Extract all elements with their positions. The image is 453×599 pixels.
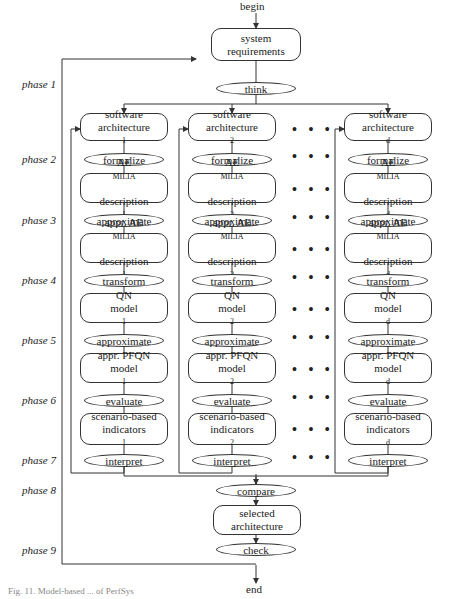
interpret-ellipse-2: interpret bbox=[192, 454, 272, 467]
evaluate-ellipse-3: evaluate bbox=[348, 394, 428, 407]
sel-line1: selected bbox=[239, 507, 274, 520]
approximate2-ellipse-1: approximate bbox=[84, 334, 164, 347]
think-ellipse: think bbox=[216, 82, 296, 95]
aemilia-description-box-2: AEmiliadescription2 bbox=[188, 173, 276, 203]
software-architecture-box-2: softwarearchitecture2 bbox=[188, 113, 276, 141]
transform-ellipse-3: transform bbox=[348, 274, 428, 287]
pfqn-model-box-2: appr. PFQNmodel2 bbox=[188, 353, 276, 383]
phase-8-label: phase 8 bbox=[22, 484, 56, 496]
software-architecture-box-3: softwarearchitectured bbox=[344, 113, 432, 141]
qn-model-box-3: QNmodeld bbox=[344, 293, 432, 323]
ellipsis-dots: • • • bbox=[292, 149, 334, 165]
begin-label: begin bbox=[240, 0, 264, 12]
ellipsis-dots: • • • bbox=[292, 302, 334, 318]
ellipsis-dots: • • • bbox=[292, 362, 334, 378]
interpret-ellipse-3: interpret bbox=[348, 454, 428, 467]
phase-1-label: phase 1 bbox=[22, 78, 56, 90]
req-line1: system bbox=[241, 32, 272, 45]
indicators-box-3: scenario-basedindicatorsd bbox=[344, 413, 432, 445]
evaluate-ellipse-2: evaluate bbox=[192, 394, 272, 407]
approximate2-ellipse-2: approximate bbox=[192, 334, 272, 347]
phase-9-label: phase 9 bbox=[22, 544, 56, 556]
evaluate-ellipse-1: evaluate bbox=[84, 394, 164, 407]
appr-aemilia-box-2: appr. AEmiliadescription2 bbox=[188, 233, 276, 263]
ellipsis-dots: • • • bbox=[292, 182, 334, 198]
pfqn-model-box-1: appr. PFQNmodel1 bbox=[80, 353, 168, 383]
qn-model-box-2: QNmodel2 bbox=[188, 293, 276, 323]
figure-caption: Fig. 11. Model-based ... of PerfSys bbox=[8, 586, 134, 596]
qn-model-box-1: QNmodel1 bbox=[80, 293, 168, 323]
ellipsis-dots: • • • bbox=[292, 390, 334, 406]
req-line2: requirements bbox=[227, 45, 284, 58]
phase-5-label: phase 5 bbox=[22, 334, 56, 346]
pfqn-model-box-3: appr. PFQNmodeld bbox=[344, 353, 432, 383]
compare-ellipse: compare bbox=[216, 484, 296, 497]
ellipsis-dots: • • • bbox=[292, 422, 334, 438]
interpret-ellipse-1: interpret bbox=[84, 454, 164, 467]
ellipsis-dots: • • • bbox=[292, 122, 334, 138]
phase-4-label: phase 4 bbox=[22, 274, 56, 286]
ellipsis-dots: • • • bbox=[292, 450, 334, 466]
phase-3-label: phase 3 bbox=[22, 214, 56, 226]
phase-6-label: phase 6 bbox=[22, 394, 56, 406]
sel-line2: architecture bbox=[231, 520, 283, 533]
indicators-box-2: scenario-basedindicators2 bbox=[188, 413, 276, 445]
ellipsis-dots: • • • bbox=[292, 330, 334, 346]
indicators-box-1: scenario-basedindicators1 bbox=[80, 413, 168, 445]
approximate2-ellipse-3: approximate bbox=[348, 334, 428, 347]
system-requirements-box: system requirements bbox=[211, 28, 301, 61]
transform-ellipse-2: transform bbox=[192, 274, 272, 287]
aemilia-description-box-1: AEmiliadescription1 bbox=[80, 173, 168, 203]
aemilia-description-box-3: AEmiliadescriptiond bbox=[344, 173, 432, 203]
ellipsis-dots: • • • bbox=[292, 210, 334, 226]
phase-2-label: phase 2 bbox=[22, 153, 56, 165]
appr-aemilia-box-1: appr. AEmiliadescription1 bbox=[80, 233, 168, 263]
ellipsis-dots: • • • bbox=[292, 242, 334, 258]
appr-aemilia-box-3: appr. AEmiliadescriptiond bbox=[344, 233, 432, 263]
phase-7-label: phase 7 bbox=[22, 454, 56, 466]
selected-architecture-box: selected architecture bbox=[213, 505, 301, 535]
software-architecture-box-1: softwarearchitecture1 bbox=[80, 113, 168, 141]
end-label: end bbox=[246, 583, 262, 595]
check-ellipse: check bbox=[216, 543, 296, 556]
transform-ellipse-1: transform bbox=[84, 274, 164, 287]
ellipsis-dots: • • • bbox=[292, 270, 334, 286]
